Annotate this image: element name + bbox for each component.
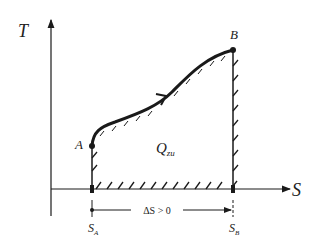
delta-s-label: ΔS > 0 (143, 205, 171, 216)
point-a-label: A (74, 137, 83, 152)
sb-label: SB (229, 221, 240, 237)
heat-label: Qzu (156, 140, 175, 158)
point-b-label: B (230, 27, 238, 42)
sa-tick (90, 185, 94, 193)
sa-label: SA (88, 221, 99, 237)
point-b (230, 47, 236, 53)
sb-tick (231, 185, 235, 193)
boundary-hatching (92, 60, 238, 189)
t-axis-label: T (18, 21, 30, 41)
s-axis-label: S (292, 180, 301, 200)
ts-diagram: T S (0, 0, 314, 247)
point-a (89, 143, 95, 149)
